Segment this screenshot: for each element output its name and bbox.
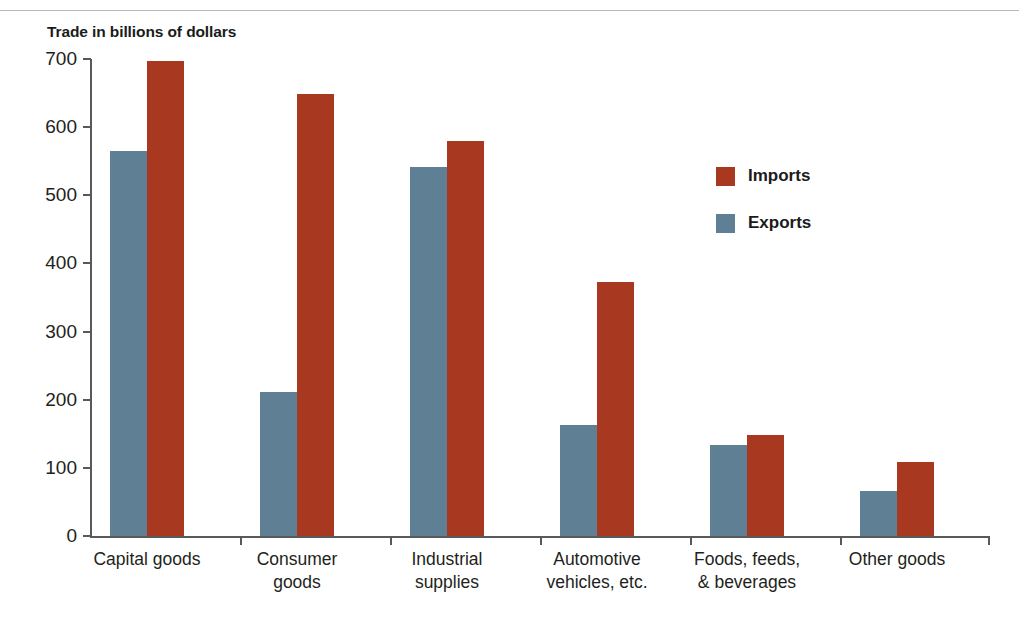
bar-imports — [297, 94, 334, 536]
bar-imports — [447, 141, 484, 536]
y-axis-tick — [83, 399, 91, 401]
y-axis-tick — [83, 262, 91, 264]
x-axis-category-label: Industrial supplies — [367, 548, 527, 594]
y-axis-tick-label: 400 — [45, 252, 77, 274]
legend-label: Exports — [748, 213, 811, 233]
y-axis-tick-label: 200 — [45, 389, 77, 411]
x-axis-tick — [690, 536, 692, 545]
y-axis-tick-label: 600 — [45, 116, 77, 138]
exports-swatch-icon — [716, 214, 735, 233]
figure-container: Trade in billions of dollars 01002003004… — [0, 0, 1019, 617]
y-axis-tick-label: 300 — [45, 321, 77, 343]
plot-area — [90, 59, 990, 536]
y-axis-tick — [83, 331, 91, 333]
y-axis-tick — [83, 58, 91, 60]
bar-imports — [747, 435, 784, 536]
x-axis-tick — [988, 536, 990, 545]
y-axis-tick-label: 500 — [45, 184, 77, 206]
y-axis-tick — [83, 126, 91, 128]
legend-item: Imports — [716, 166, 811, 186]
x-axis-category-label: Foods, feeds, & beverages — [667, 548, 827, 594]
x-axis-category-label: Other goods — [817, 548, 977, 571]
chart-legend: ImportsExports — [716, 166, 811, 260]
y-axis-line — [90, 59, 92, 536]
bar-exports — [710, 445, 747, 536]
chart-title: Trade in billions of dollars — [47, 23, 236, 41]
y-axis-tick — [83, 194, 91, 196]
x-axis-category-label: Capital goods — [67, 548, 227, 571]
legend-item: Exports — [716, 213, 811, 233]
y-axis-tick — [83, 535, 91, 537]
x-axis-category-label: Automotive vehicles, etc. — [517, 548, 677, 594]
imports-swatch-icon — [716, 167, 735, 186]
x-axis-tick — [390, 536, 392, 545]
top-divider-rule — [0, 10, 1019, 11]
bar-imports — [147, 61, 184, 536]
bar-exports — [860, 491, 897, 536]
x-axis-tick — [840, 536, 842, 545]
bar-imports — [597, 282, 634, 536]
y-axis-tick — [83, 467, 91, 469]
y-axis-tick-label: 0 — [66, 525, 77, 547]
x-axis-tick — [240, 536, 242, 545]
legend-label: Imports — [748, 166, 810, 186]
bar-exports — [110, 151, 147, 536]
x-axis-tick — [540, 536, 542, 545]
bar-imports — [897, 462, 934, 536]
bar-exports — [410, 167, 447, 536]
y-axis-tick-labels: 0100200300400500600700 — [27, 59, 77, 536]
x-axis-category-label: Consumer goods — [217, 548, 377, 594]
bar-exports — [560, 425, 597, 536]
y-axis-tick-label: 700 — [45, 48, 77, 70]
bar-exports — [260, 392, 297, 536]
y-axis-tick-label: 100 — [45, 457, 77, 479]
